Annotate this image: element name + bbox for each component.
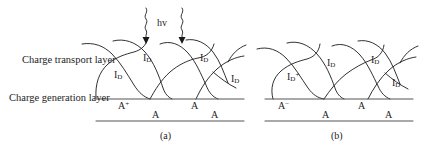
charge-generation-layer-label: Charge generation layer [9, 93, 110, 104]
panel-b-chains [257, 41, 418, 99]
charge-transport-layer-label: Charge transport layer [22, 55, 116, 66]
panel-b-id-label-4: ID [392, 78, 400, 89]
panel-a-interface-species-2: A [191, 101, 198, 111]
species-sup: − [285, 100, 289, 108]
panel-b-caption: (b) [331, 131, 343, 141]
id-sup: + [295, 71, 299, 79]
photon-arrowhead-2 [179, 37, 186, 44]
species-base: A [385, 109, 392, 120]
panel-b-id-label-1: ID+ [287, 72, 299, 83]
panel-a-id-label-1: ID [143, 53, 151, 64]
figure-container: Charge transport layer Charge generation… [0, 0, 436, 150]
species-base: A [191, 100, 198, 111]
panel-b-substrate-species-2: A [385, 110, 392, 120]
id-sub: D [234, 77, 239, 85]
panel-a-id-label-2: ID [114, 70, 122, 81]
id-sub: D [117, 73, 122, 81]
species-base: A [211, 109, 218, 120]
panel-b-id-label-2: ID [327, 58, 335, 69]
photon-arrowhead-1 [143, 37, 150, 44]
id-sub: D [203, 56, 208, 64]
panel-a-chains [82, 38, 246, 99]
species-sup: + [125, 100, 129, 108]
panel-a-interface-species-1: A+ [118, 101, 129, 111]
panel-b-id-label-3: ID [371, 55, 379, 66]
id-sub: D [330, 61, 335, 69]
panel-a-substrate-species-2: A [211, 110, 218, 120]
species-base: A [358, 100, 365, 111]
id-sub: D [374, 58, 379, 66]
panel-a-id-label-3: ID [200, 53, 208, 64]
panel-a-caption: (a) [160, 131, 171, 141]
species-base: A [322, 109, 329, 120]
id-sub: D [146, 56, 151, 64]
diagram-drawing [0, 0, 436, 150]
species-base: A [152, 109, 159, 120]
photon-energy-label: hv [157, 18, 167, 28]
panel-b-interface-species-1: A− [278, 101, 289, 111]
panel-a-id-label-4: ID [231, 74, 239, 85]
panel-b-substrate-species-1: A [322, 110, 329, 120]
panel-b-interface-species-2: A [358, 101, 365, 111]
panel-a-substrate-species-1: A [152, 110, 159, 120]
id-sub: D [395, 81, 400, 89]
